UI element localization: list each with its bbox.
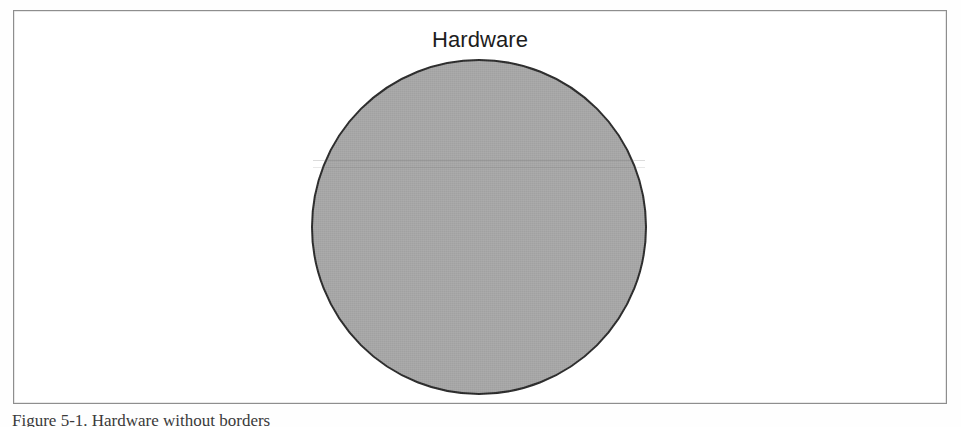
scanned-page: Hardware Figure 5-1. Hardware without bo… [0, 0, 961, 427]
figure-caption: Figure 5-1. Hardware without borders [12, 410, 712, 427]
hardware-set-circle [311, 59, 647, 395]
set-diagram [311, 59, 647, 395]
page-title: Hardware [14, 27, 946, 53]
figure-frame: Hardware [13, 10, 947, 404]
